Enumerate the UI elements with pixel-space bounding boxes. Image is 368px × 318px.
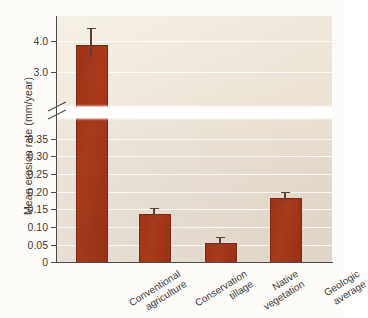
y-tick-3.0	[51, 72, 56, 73]
errorcap-top-conservation-tillage	[150, 208, 159, 209]
y-ticklabel-0.15: 0.15	[4, 203, 48, 215]
y-axis-line	[56, 16, 57, 263]
errorbar-conservation-tillage	[153, 208, 154, 217]
y-tick-0.10	[51, 227, 56, 228]
bar-conventional-agriculture	[76, 45, 108, 262]
errorbar-conventional-agriculture	[90, 28, 91, 57]
y-ticklabel-0.10: 0.10	[4, 221, 48, 233]
y-tick-4.0	[51, 41, 56, 42]
y-ticklabel-0.35: 0.35	[4, 133, 48, 145]
y-ticklabel-0.25: 0.25	[4, 168, 48, 180]
y-tick-0.05	[51, 245, 56, 246]
errorcap-top-conventional-agriculture	[87, 28, 96, 29]
y-ticklabel-4.0: 4.0	[4, 35, 48, 47]
x-ticklabel-conservation-tillage: Conservation tillage	[193, 268, 255, 318]
y-tick-0.35	[51, 139, 56, 140]
plot-area	[57, 16, 332, 262]
errorcap-top-native-vegetation	[216, 237, 225, 238]
x-ticklabel-native-vegetation: Native vegetation	[255, 268, 306, 312]
x-ticklabel-conventional-agriculture: Conventional agriculture	[127, 268, 189, 318]
bar-native-vegetation	[205, 243, 237, 262]
y-ticklabel-0.05: 0.05	[4, 239, 48, 251]
y-tick-0.30	[51, 156, 56, 157]
bar-conservation-tillage	[139, 214, 171, 262]
y-tick-0.25	[51, 174, 56, 175]
y-ticklabel-3.0: 3.0	[4, 66, 48, 78]
errorbar-geologic-average	[284, 192, 285, 201]
axis-break-wave-icon	[57, 107, 332, 118]
x-ticklabel-geologic-average: Geologic average	[322, 268, 368, 308]
errorbar-native-vegetation	[219, 237, 220, 245]
y-ticklabel-0.30: 0.30	[4, 150, 48, 162]
y-ticklabel-0.20: 0.20	[4, 186, 48, 198]
axis-break-band	[57, 107, 332, 118]
errorcap-top-geologic-average	[281, 192, 290, 193]
y-ticklabel-0: 0	[4, 256, 48, 268]
y-tick-0	[51, 262, 56, 263]
y-tick-0.20	[51, 192, 56, 193]
bar-geologic-average	[270, 198, 302, 262]
x-axis-line	[56, 262, 333, 263]
y-tick-0.15	[51, 209, 56, 210]
gridline-4.0	[57, 41, 332, 42]
